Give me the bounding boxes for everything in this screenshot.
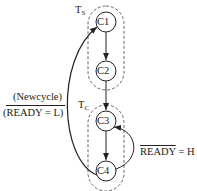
node-c3-label: C3 [97, 116, 109, 127]
edge-label-ready-high: READY = H [140, 147, 195, 158]
node-c1-label: C1 [97, 17, 109, 28]
edge-label-divider [6, 105, 65, 106]
node-c4-label: C4 [97, 166, 109, 177]
edge-label-newcycle: (Newcycle) [13, 92, 62, 103]
group-tc-label: TC [78, 100, 89, 112]
node-c2-label: C2 [97, 66, 109, 77]
group-ts-label: TS [75, 5, 85, 17]
edge-label-ready-low: (READY = L) [3, 108, 63, 119]
